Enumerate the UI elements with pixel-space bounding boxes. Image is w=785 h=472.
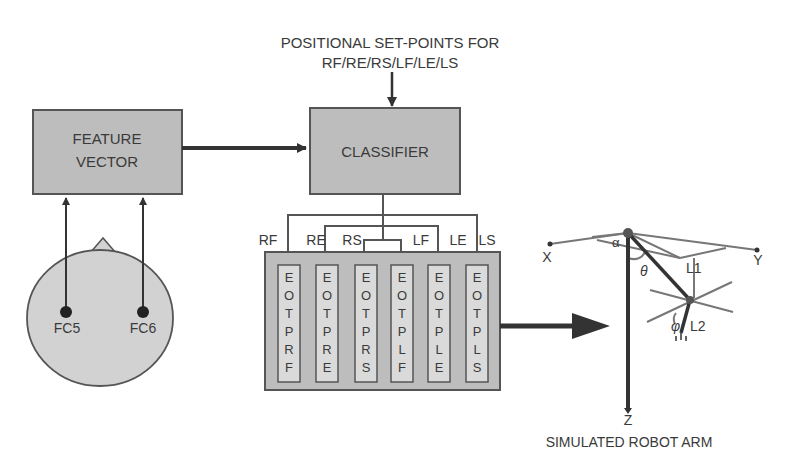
eotp-bar-rf: EOTPRF	[278, 265, 300, 382]
electrode-fc5-label: FC5	[54, 320, 81, 336]
svg-text:θ: θ	[640, 263, 648, 279]
electrode-fc5	[60, 306, 72, 318]
eotp-bar-le: EOTPLE	[428, 265, 450, 382]
classifier-output-lines	[288, 194, 477, 258]
robot-caption: SIMULATED ROBOT ARM	[546, 434, 713, 450]
robot-elbow-joint	[686, 296, 694, 304]
robot-arm-diagram	[550, 233, 757, 324]
classifier-box: CLASSIFIER	[310, 108, 460, 194]
eotp-bar-lf: EOTPLF	[391, 265, 413, 382]
svg-text:L1: L1	[686, 260, 702, 276]
svg-text:RS: RS	[342, 232, 361, 248]
svg-text:LE: LE	[449, 232, 466, 248]
feature-vector-box: FEATURE VECTOR	[33, 110, 182, 194]
svg-text:α: α	[612, 235, 620, 250]
svg-text:LS: LS	[478, 232, 495, 248]
electrode-fc6	[137, 306, 149, 318]
eotp-to-robot-arrow	[500, 313, 610, 339]
svg-text:X: X	[542, 249, 552, 265]
svg-text:POSITIONAL SET-POINTS FOR: POSITIONAL SET-POINTS FOR	[281, 34, 500, 51]
eotp-bar-ls: EOTPLS	[466, 265, 488, 382]
eotp-bar-rs: EOTPRS	[355, 265, 377, 382]
bci-robot-arm-diagram: POSITIONAL SET-POINTS FOR RF/RE/RS/LF/LE…	[0, 0, 785, 472]
robot-labels: X Y Z L1 L2 α θ φ SIMULATED ROBOT ARM	[542, 235, 763, 450]
svg-text:RE: RE	[306, 232, 325, 248]
svg-text:CLASSIFIER: CLASSIFIER	[341, 143, 429, 160]
setpoints-label: POSITIONAL SET-POINTS FOR RF/RE/RS/LF/LE…	[281, 34, 500, 71]
svg-text:RF/RE/RS/LF/LE/LS: RF/RE/RS/LF/LE/LS	[322, 54, 459, 71]
svg-text:RF: RF	[259, 232, 278, 248]
svg-text:LF: LF	[413, 232, 429, 248]
svg-text:FEATURE: FEATURE	[73, 130, 142, 147]
svg-text:VECTOR: VECTOR	[76, 153, 138, 170]
svg-text:Z: Z	[624, 412, 633, 428]
electrode-fc6-label: FC6	[130, 320, 157, 336]
x-axis-end	[548, 242, 553, 247]
svg-text:Y: Y	[753, 252, 763, 268]
svg-text:L2: L2	[690, 318, 706, 334]
svg-text:φ: φ	[671, 318, 680, 334]
eotp-bar-re: EOTPRE	[316, 265, 338, 382]
robot-base-joint	[623, 228, 633, 238]
head-diagram	[27, 238, 173, 386]
